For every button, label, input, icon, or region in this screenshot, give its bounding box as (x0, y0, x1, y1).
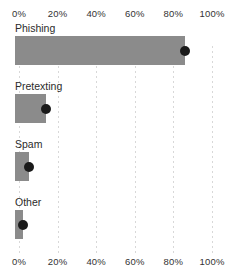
axis-bottom: 0% 20% 40% 60% 80% 100% (0, 256, 243, 270)
series-label-phishing: Phishing (15, 22, 55, 34)
marker-dot-pretexting[interactable] (41, 104, 51, 114)
horizontal-bar-chart: 0% 20% 40% 60% 80% 100% Phishing Pretext… (0, 0, 243, 278)
axis-bottom-tick-20: 20% (48, 256, 68, 267)
axis-bottom-tick-100: 100% (199, 256, 224, 267)
series-label-spam: Spam (15, 138, 42, 150)
series-group-pretexting: Pretexting (0, 80, 243, 132)
series-group-other: Other (0, 196, 243, 248)
series-group-phishing: Phishing (0, 22, 243, 74)
series-label-other: Other (15, 196, 41, 208)
plot-area: Phishing Pretexting Spam Other (0, 22, 243, 256)
axis-top-tick-0: 0% (12, 8, 26, 19)
axis-bottom-tick-80: 80% (164, 256, 184, 267)
bar-track-spam (0, 152, 243, 182)
series-label-pretexting: Pretexting (15, 80, 62, 92)
axis-top-tick-100: 100% (199, 8, 224, 19)
axis-bottom-tick-40: 40% (86, 256, 106, 267)
axis-bottom-tick-60: 60% (125, 256, 145, 267)
marker-dot-phishing[interactable] (180, 46, 190, 56)
bar-track-pretexting (0, 94, 243, 124)
bar-track-other (0, 210, 243, 240)
series-group-spam: Spam (0, 138, 243, 190)
axis-top-tick-20: 20% (48, 8, 68, 19)
marker-dot-other[interactable] (18, 220, 28, 230)
bar-phishing[interactable] (15, 36, 185, 65)
axis-bottom-tick-0: 0% (12, 256, 26, 267)
axis-top: 0% 20% 40% 60% 80% 100% (0, 8, 243, 22)
axis-top-tick-80: 80% (164, 8, 184, 19)
axis-top-tick-60: 60% (125, 8, 145, 19)
bar-track-phishing (0, 36, 243, 66)
marker-dot-spam[interactable] (24, 162, 34, 172)
axis-top-tick-40: 40% (86, 8, 106, 19)
